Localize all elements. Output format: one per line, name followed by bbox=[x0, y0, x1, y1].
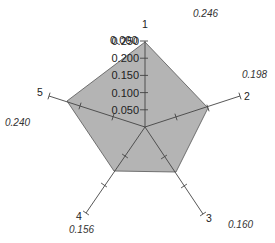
radial-tick-label: 0.200 bbox=[111, 52, 139, 64]
value-label-1: 0.246 bbox=[193, 8, 218, 19]
radar-chart: 0.0000.0500.1000.1500.2000.250 12345 0.2… bbox=[0, 0, 275, 243]
value-label-5: 0.240 bbox=[5, 117, 30, 128]
radial-tick-label: 0.100 bbox=[111, 87, 139, 99]
value-label-2: 0.198 bbox=[242, 69, 267, 80]
axis-tick bbox=[83, 211, 89, 215]
axis-label-4: 4 bbox=[76, 210, 82, 222]
axis-label-5: 5 bbox=[37, 86, 43, 98]
radial-tick-label: 0.250 bbox=[111, 35, 139, 47]
radial-tick-label: 0.150 bbox=[111, 69, 139, 81]
axis-label-2: 2 bbox=[244, 90, 250, 102]
axis-label-3: 3 bbox=[206, 212, 212, 224]
radial-tick-label: 0.050 bbox=[111, 104, 139, 116]
value-label-4: 0.156 bbox=[69, 224, 94, 235]
axis-label-1: 1 bbox=[142, 18, 148, 30]
axis-tick bbox=[181, 184, 187, 188]
value-label-3: 0.160 bbox=[228, 219, 253, 230]
